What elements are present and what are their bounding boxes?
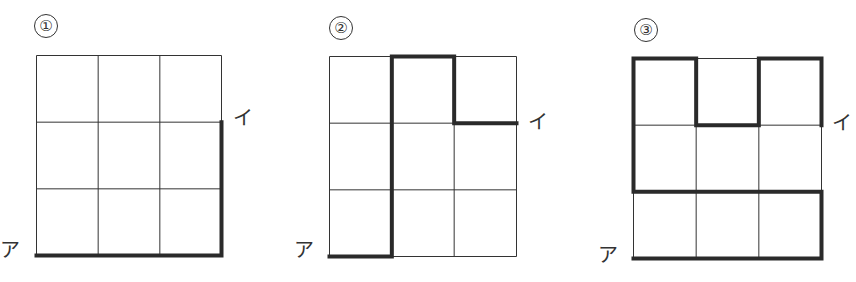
panel-number-2: ② [329,16,353,40]
end-label-i-3: イ [832,113,852,133]
start-label-a-1: ア [0,240,20,260]
start-label-a-3: ア [598,245,618,265]
route-path [330,57,517,257]
panel-number-3: ③ [634,18,658,42]
panel-number-1: ① [34,14,58,38]
start-label-a-2: ア [294,240,314,260]
end-label-i-2: イ [528,112,548,132]
grid-1 [36,55,222,255]
end-label-i-1: イ [233,108,253,128]
route-path [634,59,822,259]
grid-3 [633,58,822,259]
grid-2 [329,56,517,257]
